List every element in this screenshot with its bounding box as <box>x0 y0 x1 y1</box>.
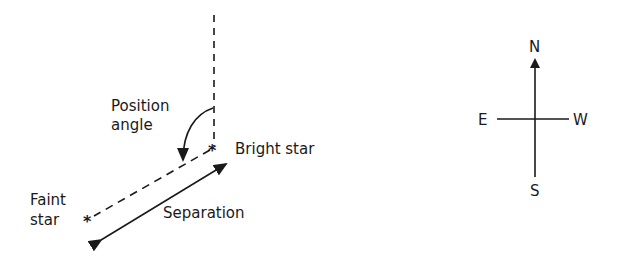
compass-rose: N S E W <box>478 38 588 200</box>
compass-south-label: S <box>530 182 540 200</box>
faint-star-icon: * <box>83 212 92 231</box>
position-angle-label-2: angle <box>111 116 153 134</box>
separation-label: Separation <box>163 204 245 222</box>
compass-north-label: N <box>529 38 540 56</box>
double-star-diagram: * * Position angle Bright star Faint sta… <box>0 0 622 256</box>
bright-star-icon: * <box>208 141 217 160</box>
faint-star-label-2: star <box>30 211 60 229</box>
faint-star-label: Faint <box>30 191 66 209</box>
bright-star-label: Bright star <box>235 140 315 158</box>
position-angle-label: Position <box>111 97 169 115</box>
compass-east-label: E <box>478 111 487 129</box>
compass-west-label: W <box>573 111 588 129</box>
